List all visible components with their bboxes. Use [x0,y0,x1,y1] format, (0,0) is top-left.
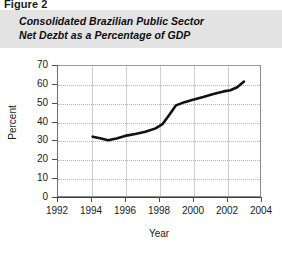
x-axis-tick [91,197,92,202]
x-axis-tick [227,197,228,202]
y-axis-tick-label: 10 [4,172,48,183]
x-axis-tick [159,197,160,202]
gridline-horizontal [58,141,260,142]
y-axis-tick [52,122,57,123]
y-axis-tick-label: 40 [4,116,48,127]
x-axis-tick [125,197,126,202]
y-axis-tick-label: 50 [4,97,48,108]
chart-title-band: Consolidated Brazilian Public Sector Net… [0,10,282,48]
gridline-horizontal [58,104,260,105]
x-axis-label: Year [57,228,261,239]
x-axis-tick [261,197,262,202]
gridline-horizontal [58,123,260,124]
x-axis-tick [57,197,58,202]
gridline-vertical [126,66,127,196]
y-axis-tick-label: 30 [4,134,48,145]
gridline-vertical [92,66,93,196]
y-axis-tick [52,178,57,179]
gridline-vertical [194,66,195,196]
y-axis-tick [52,84,57,85]
chart-title-line-2: Net Dezbt as a Percentage of GDP [19,28,190,43]
chart-title-line-1: Consolidated Brazilian Public Sector [19,14,204,29]
y-axis-line [57,65,58,197]
figure-label: Figure 2 [4,0,48,10]
plot-area [57,65,261,197]
gridline-horizontal [58,85,260,86]
x-axis-tick-label: 2004 [241,205,281,216]
gridline-horizontal [58,179,260,180]
y-axis-tick-label: 60 [4,78,48,89]
y-axis-tick [52,159,57,160]
gridline-horizontal [58,160,260,161]
x-axis-tick [193,197,194,202]
gridline-vertical [160,66,161,196]
y-axis-tick [52,103,57,104]
y-axis-tick [52,140,57,141]
y-axis-tick-label: 20 [4,153,48,164]
y-axis-tick-label: 70 [4,59,48,70]
y-axis-tick [52,65,57,66]
y-axis-tick-label: 0 [4,191,48,202]
gridline-vertical [228,66,229,196]
